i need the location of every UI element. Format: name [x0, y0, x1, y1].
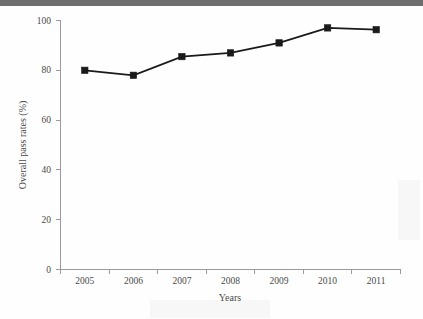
line-chart-svg: 100 80 60 40 20 0 2005 2006 2007 2008: [0, 0, 423, 319]
data-point-2005: [82, 67, 88, 73]
x-tick-label-2007: 2007: [172, 276, 191, 286]
y-tick-label-40: 40: [42, 165, 52, 175]
y-tick-label-0: 0: [46, 265, 51, 275]
y-tick-label-100: 100: [37, 16, 52, 26]
x-tick-label-2006: 2006: [124, 276, 143, 286]
x-tick-label-2008: 2008: [221, 276, 240, 286]
data-point-2011: [373, 27, 379, 33]
y-tick-label-80: 80: [42, 65, 52, 75]
data-point-2008: [227, 50, 233, 56]
y-axis-title: Overall pass rates (%): [17, 101, 29, 190]
x-tick-label-2009: 2009: [270, 276, 289, 286]
data-point-2007: [179, 53, 185, 59]
y-axis-ticks: [56, 21, 61, 270]
x-tick-label-2011: 2011: [367, 276, 386, 286]
data-point-2006: [130, 72, 136, 78]
y-tick-label-20: 20: [42, 215, 52, 225]
data-point-2009: [276, 40, 282, 46]
data-point-2010: [324, 25, 330, 31]
x-axis-ticks: [61, 270, 401, 275]
x-tick-label-2010: 2010: [318, 276, 337, 286]
series-markers: [82, 25, 380, 79]
chart-plot-area: 100 80 60 40 20 0 2005 2006 2007 2008: [0, 0, 423, 319]
x-axis-title: Years: [219, 292, 241, 303]
x-tick-label-2005: 2005: [75, 276, 94, 286]
figure-canvas: 100 80 60 40 20 0 2005 2006 2007 2008: [0, 0, 423, 319]
y-tick-label-60: 60: [42, 115, 52, 125]
